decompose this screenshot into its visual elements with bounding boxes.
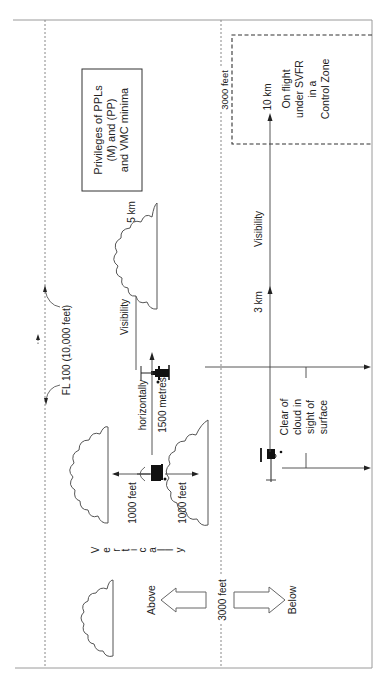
svfr-line-2: under SVFR [293,60,305,118]
visibility-label-5km: Visibility [119,299,130,335]
svfr-visibility-label: Visibility [253,211,264,247]
value-10km: 10 km [262,83,273,110]
1000ft-below-label: 1000 feet [177,482,188,524]
svfr-line-3: in a [306,80,318,97]
aircraft-mid-icon [137,464,167,481]
above-label: Above [145,585,157,615]
svfr-line-1: On flight [280,69,292,108]
title-line-1: Privileges of PPLs [92,85,104,175]
svfr-line-4: Control Zone [319,58,331,119]
cloud-icon [81,580,113,656]
fl100-marker: FL 100 (10,000 feet) [36,285,72,405]
clear-of-cloud-section: Clear of cloud in sight of surface [205,338,371,471]
cloud-icon [70,427,108,523]
vertically-label: V e r t i c a l l y [90,546,185,553]
fl100-label: FL 100 (10,000 feet) [61,305,72,395]
svg-text:y: y [174,548,185,553]
clear-line-4: surface [317,400,329,435]
clear-line-2: cloud in [291,399,303,435]
value-3km: 3 km [253,291,264,313]
value-5km: 5 km [126,201,137,223]
below-label: Below [286,585,298,614]
clear-line-3: sight of [304,400,316,434]
svfr-visibility-arrow: 10 km Visibility 3 km [253,83,273,338]
vmc-minima-diagram: Privileges of PPLs (M) and (PP) and VMC … [0,0,386,676]
horizontally-label: horizontally [137,380,148,431]
above-arrow-icon [161,588,206,612]
svfr-control-zone-box: On flight under SVFR in a Control Zone [232,35,372,144]
horizontal-separation: horizontally 1500 metres [137,352,168,455]
title-line-2: (M) and (PP) [105,99,117,162]
3000ft-label-top: 3000 feet [219,70,230,110]
3000ft-label-mid: 3000 feet [217,579,228,621]
clear-line-1: Clear of [278,399,290,436]
title-box: Privileges of PPLs (M) and (PP) and VMC … [82,69,142,191]
aircraft-lower-icon [261,448,282,482]
title-line-3: and VMC minima [118,87,130,172]
svg-text:V: V [90,546,101,553]
below-arrow-icon [234,587,285,613]
1000ft-above-label: 1000 feet [127,482,138,524]
1500m-label: 1500 metres [157,377,168,433]
